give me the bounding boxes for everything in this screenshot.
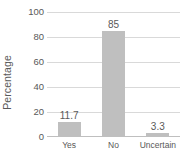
bar-slot: 85	[91, 12, 135, 137]
bar-value-label: 85	[108, 19, 119, 30]
bar-yes[interactable]: 11.7	[58, 122, 81, 137]
bars-layer: 11.7 85 3.3	[47, 12, 180, 137]
bar-value-label: 11.7	[60, 110, 79, 121]
bar-no[interactable]: 85	[102, 31, 125, 137]
y-axis-tick-labels: 100 80 60 40 20 0	[17, 0, 44, 165]
bar-value-label: 3.3	[151, 121, 165, 132]
y-tick-label: 20	[17, 107, 44, 117]
x-tick-label-uncertain: Uncertain	[136, 140, 180, 150]
x-tick-label-yes: Yes	[47, 140, 91, 150]
bar-slot: 3.3	[136, 12, 180, 137]
y-tick-label: 0	[17, 132, 44, 142]
y-tick-label: 80	[17, 32, 44, 42]
bar-uncertain[interactable]: 3.3	[146, 133, 169, 137]
bar-slot: 11.7	[47, 12, 91, 137]
y-axis-title: Percentage	[0, 0, 14, 165]
plot-area: 11.7 85 3.3	[47, 12, 180, 137]
y-tick-label: 60	[17, 57, 44, 67]
y-tick-label: 40	[17, 82, 44, 92]
bar-chart: Percentage 100 80 60 40 20 0 11.7 85	[0, 0, 186, 165]
x-axis-tick-labels: Yes No Uncertain	[47, 140, 180, 150]
y-tick-label: 100	[17, 7, 44, 17]
x-tick-label-no: No	[91, 140, 135, 150]
